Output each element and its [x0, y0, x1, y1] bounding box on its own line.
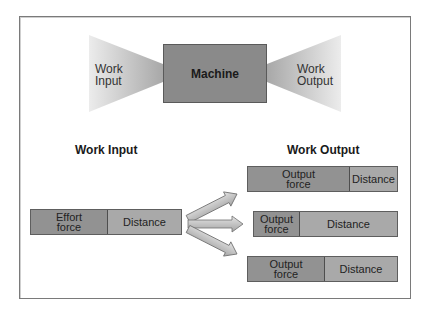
work-input-label: Work Input: [95, 63, 123, 87]
output-distance-3-label: Distance: [340, 264, 383, 274]
output-bar-2: Output force Distance: [253, 211, 398, 237]
work-output-label: Work Output: [297, 63, 333, 87]
output-force-1-line2: force: [282, 179, 315, 189]
output-force-segment-2: Output force: [254, 212, 299, 236]
output-bar-1: Output force Distance: [247, 166, 398, 192]
output-distance-segment-1: Distance: [349, 167, 397, 191]
output-distance-segment-3: Distance: [324, 257, 397, 281]
output-distance-segment-2: Distance: [299, 212, 397, 236]
work-input-label-line2: Input: [95, 75, 123, 87]
machine-label: Machine: [191, 67, 239, 81]
work-output-heading: Work Output: [287, 144, 359, 156]
input-bar: Effort force Distance: [30, 209, 182, 235]
work-input-heading: Work Input: [75, 144, 137, 156]
output-distance-1-label: Distance: [352, 174, 395, 184]
output-distance-2-label: Distance: [327, 219, 370, 229]
output-force-3-line2: force: [269, 269, 302, 279]
output-bar-3: Output force Distance: [247, 256, 398, 282]
output-force-segment-1: Output force: [248, 167, 349, 191]
input-distance-segment: Distance: [107, 210, 181, 234]
output-force-segment-3: Output force: [248, 257, 324, 281]
effort-force-segment: Effort force: [31, 210, 107, 234]
output-force-2-line2: force: [260, 224, 293, 234]
effort-force-line2: force: [56, 222, 82, 232]
machine-box: Machine: [163, 44, 267, 103]
work-output-label-line2: Output: [297, 75, 333, 87]
input-distance-label: Distance: [123, 217, 166, 227]
